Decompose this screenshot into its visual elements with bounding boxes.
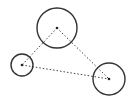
- circles-diagram: [0, 0, 131, 103]
- center-dot-top: [56, 27, 59, 30]
- center-dot-left: [21, 64, 24, 67]
- center-dots: [21, 27, 111, 81]
- edges: [22, 28, 109, 79]
- edge-left-right: [22, 65, 109, 79]
- edge-top-left: [22, 28, 57, 65]
- nodes: [11, 8, 125, 95]
- edge-top-right: [57, 28, 109, 79]
- center-dot-right: [108, 78, 111, 81]
